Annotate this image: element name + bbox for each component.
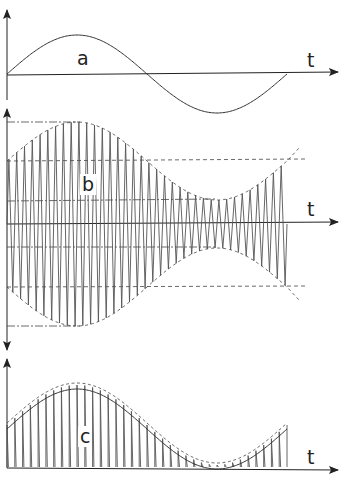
panel-a-sine-curve bbox=[7, 35, 287, 113]
panel-c-pulses bbox=[7, 385, 287, 467]
panel-c bbox=[7, 359, 338, 470]
panel-c-label: c bbox=[78, 426, 92, 447]
panel-b-t-axis bbox=[7, 222, 338, 224]
panel-c-t-axis bbox=[7, 468, 338, 470]
figure-canvas bbox=[0, 0, 346, 480]
panel-b-label: b bbox=[80, 174, 96, 195]
panel-a-t-label: t bbox=[307, 51, 314, 70]
panel-a-t-axis bbox=[7, 72, 338, 75]
panel-b bbox=[7, 109, 338, 350]
panel-c-t-label: t bbox=[307, 448, 314, 467]
panel-a-label: a bbox=[77, 49, 89, 68]
panel-a bbox=[7, 10, 338, 113]
panel-b-t-label: t bbox=[307, 200, 314, 219]
